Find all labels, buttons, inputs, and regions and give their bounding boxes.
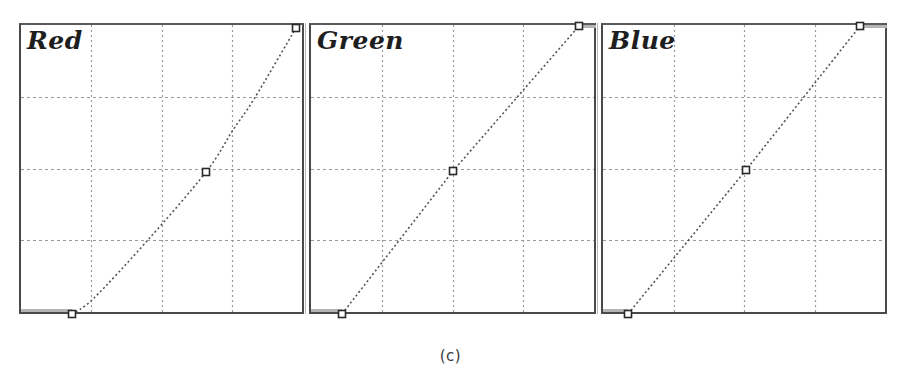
green-curve-panel: Green: [309, 23, 596, 314]
red-tone-curve: [72, 28, 296, 314]
green-curve-plot[interactable]: [311, 25, 594, 312]
control-point-handle[interactable]: [625, 311, 632, 318]
red-curve-plot[interactable]: [21, 25, 302, 312]
green-panel-label: Green: [317, 26, 404, 56]
blue-panel-label: Blue: [609, 26, 676, 56]
control-point-handle[interactable]: [293, 25, 300, 32]
figure-caption: (c): [0, 347, 901, 365]
control-point-handle[interactable]: [339, 311, 346, 318]
red-curve-panel: Red: [19, 23, 304, 314]
clip-shadow-bar: [311, 309, 342, 312]
blue-curve-panel: Blue: [601, 23, 887, 314]
control-point-handle[interactable]: [857, 23, 864, 30]
control-point-handle[interactable]: [69, 311, 76, 318]
control-point-handle[interactable]: [576, 23, 583, 30]
red-panel-label: Red: [27, 26, 83, 56]
panel-divider: [597, 23, 598, 314]
control-point-handle[interactable]: [743, 167, 750, 174]
control-point-handle[interactable]: [450, 168, 457, 175]
control-point-handle[interactable]: [203, 169, 210, 176]
panel-divider: [305, 23, 306, 314]
clip-shadow-bar: [21, 309, 72, 312]
blue-curve-plot[interactable]: [603, 25, 885, 312]
